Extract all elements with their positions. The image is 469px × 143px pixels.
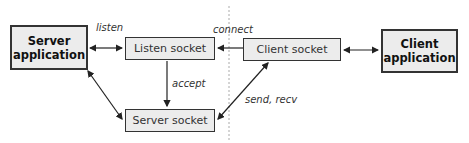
server-socket-label: Server socket bbox=[132, 114, 207, 127]
connect-label: connect bbox=[213, 24, 253, 35]
client-socket-label: Client socket bbox=[257, 43, 328, 56]
send-recv-arrow bbox=[218, 63, 268, 119]
client-application-line1: Client bbox=[401, 37, 439, 51]
server-app-socket-arrow bbox=[88, 71, 122, 119]
server-socket-node: Server socket bbox=[125, 109, 215, 132]
client-application-node: Client application bbox=[381, 29, 458, 73]
server-application-node: Server application bbox=[10, 25, 88, 70]
client-socket-node: Client socket bbox=[243, 38, 341, 61]
listen-label: listen bbox=[96, 22, 123, 33]
client-application-line2: application bbox=[383, 51, 455, 65]
listen-socket-label: Listen socket bbox=[134, 42, 206, 55]
accept-label: accept bbox=[172, 78, 206, 89]
server-application-line2: application bbox=[13, 48, 85, 62]
server-application-line1: Server bbox=[28, 34, 71, 48]
listen-socket-node: Listen socket bbox=[125, 37, 215, 60]
send-recv-label: send, recv bbox=[245, 94, 297, 105]
